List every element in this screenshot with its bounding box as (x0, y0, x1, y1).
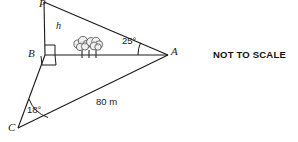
angle-label-a: 25° (122, 36, 136, 46)
right-angle-pba-marker (45, 45, 55, 55)
segment-pa (44, 2, 168, 55)
side-length-label-ca: 80 m (96, 97, 117, 107)
angle-label-c: 18° (27, 105, 41, 115)
vertex-label-p: P (39, 0, 46, 9)
vertex-label-a: A (171, 46, 178, 57)
diagram-canvas: P B C A h 25° 18° 80 m NOT TO SCALE (0, 0, 298, 142)
height-label-h: h (56, 21, 61, 31)
vertex-label-c: C (8, 122, 15, 133)
not-to-scale-note: NOT TO SCALE (213, 50, 286, 60)
geometry-figure (0, 0, 298, 142)
vertex-label-b: B (28, 48, 35, 59)
segment-pb (44, 2, 45, 55)
angle-arc-a (138, 43, 141, 55)
